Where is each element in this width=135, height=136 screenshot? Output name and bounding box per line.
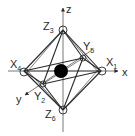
vertex-x1-marker	[98, 67, 106, 75]
x-axis-label: x	[122, 66, 128, 78]
z-axis-label: z	[66, 3, 72, 15]
y-axis-label: y	[16, 93, 22, 105]
vertex-y2-label: Y2	[34, 90, 45, 104]
vertex-z3-label: Z3	[43, 20, 54, 34]
vertex-z6-label: Z6	[45, 108, 56, 122]
vertex-x1-label: X1	[106, 56, 117, 70]
vertex-z3-marker	[59, 26, 67, 34]
octahedron-diagram: z x y Z3 Z6 X4 X1 Y5 Y2	[0, 0, 135, 136]
vertex-y2-marker	[40, 81, 46, 87]
central-atom	[54, 64, 68, 78]
vertex-y5-label: Y5	[83, 40, 94, 54]
vertex-x4-label: X4	[10, 58, 21, 72]
vertex-z6-marker	[59, 106, 67, 114]
vertex-y5-marker	[80, 55, 86, 61]
